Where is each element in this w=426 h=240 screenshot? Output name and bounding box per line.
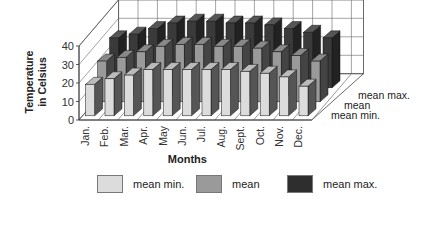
svg-text:Sept.: Sept. <box>234 126 246 151</box>
svg-text:Jan.: Jan. <box>79 126 91 146</box>
svg-text:Apr.: Apr. <box>137 126 149 145</box>
legend-item-mean-min: mean min. <box>97 175 184 193</box>
svg-text:0: 0 <box>68 114 74 126</box>
legend-label: mean <box>232 178 260 190</box>
legend-label: mean max. <box>323 178 377 190</box>
svg-text:Aug.: Aug. <box>215 126 227 148</box>
svg-text:Temperaturein Celsius: Temperaturein Celsius <box>23 50 48 113</box>
svg-text:Jun.: Jun. <box>176 126 188 146</box>
svg-text:Dec.: Dec. <box>292 126 304 148</box>
svg-text:Mar.: Mar. <box>118 126 130 146</box>
svg-text:20: 20 <box>62 77 74 89</box>
svg-text:30: 30 <box>62 59 74 71</box>
svg-text:May: May <box>157 125 169 146</box>
chart-legend: mean min. mean mean max. <box>0 175 426 195</box>
legend-swatch-mean <box>196 175 222 193</box>
svg-text:Months: Months <box>168 153 207 165</box>
svg-text:mean min.: mean min. <box>331 109 380 121</box>
legend-item-mean-max: mean max. <box>287 175 377 193</box>
svg-text:40: 40 <box>62 40 74 52</box>
svg-text:Oct.: Oct. <box>254 126 266 145</box>
svg-text:Jul.: Jul. <box>195 126 207 142</box>
legend-swatch-mean-min <box>97 175 123 193</box>
svg-text:10: 10 <box>62 96 74 108</box>
svg-text:Feb.: Feb. <box>98 126 110 147</box>
legend-item-mean: mean <box>196 175 260 193</box>
svg-text:Nov.: Nov. <box>273 126 285 147</box>
legend-label: mean min. <box>133 178 184 190</box>
legend-swatch-mean-max <box>287 175 313 193</box>
